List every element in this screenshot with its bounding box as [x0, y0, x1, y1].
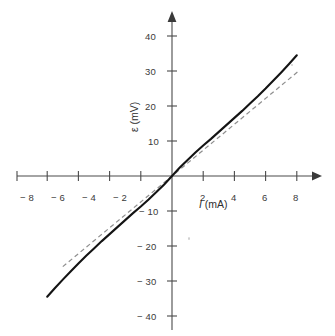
xtick-label-8: 8	[293, 192, 298, 203]
xtick-label-neg4: − 4	[82, 192, 96, 203]
chart-plot-area	[0, 0, 335, 336]
ytick-label-10: 10	[148, 136, 159, 147]
y-axis-symbol: ε	[128, 127, 140, 132]
xtick-label-neg2: − 2	[113, 192, 127, 203]
xtick-label-4: 4	[231, 192, 236, 203]
y-axis-title: ε (mV)	[128, 102, 140, 132]
ytick-label-40: 40	[145, 31, 156, 42]
xtick-label-neg6: − 6	[51, 192, 65, 203]
x-axis-symbol: I	[199, 198, 202, 210]
ytick-label-neg10: − 10	[139, 206, 159, 217]
x-axis-arrow-icon	[312, 172, 322, 181]
xtick-label-neg8: − 8	[20, 192, 34, 203]
y-axis-arrow-icon	[168, 11, 177, 22]
y-axis-unit: (mV)	[128, 102, 140, 125]
x-axis-title: I (mA)	[199, 198, 228, 210]
ytick-label-30: 30	[145, 66, 156, 77]
linear-tangent-line	[63, 70, 300, 267]
ytick-label-20: 20	[145, 101, 156, 112]
ytick-label-neg20: − 20	[137, 241, 157, 252]
x-axis-unit: (mA)	[205, 198, 228, 210]
xtick-label-6: 6	[262, 192, 267, 203]
figure-canvas: − 8 − 6 − 4 − 2 2 4 6 8 40 30 20 10 − 10…	[0, 0, 335, 336]
scan-speck	[188, 237, 190, 240]
scan-speck	[291, 64, 293, 66]
ytick-label-neg30: − 30	[137, 276, 157, 287]
ytick-label-neg40: − 40	[137, 311, 157, 322]
